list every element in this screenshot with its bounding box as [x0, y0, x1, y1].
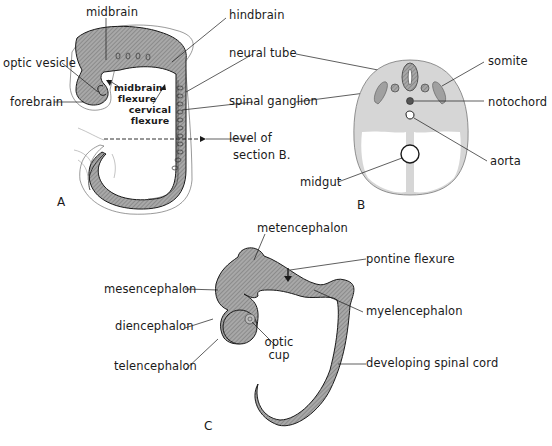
label-section-b: section B. — [233, 149, 291, 162]
label-optic-vesicle: optic vesicle — [3, 57, 76, 70]
label-neural-tube: neural tube — [229, 47, 297, 60]
label-optic-cup: optic cup — [262, 336, 296, 362]
panel-label-a: A — [57, 196, 65, 209]
label-telencephalon: telencephalon — [114, 360, 197, 373]
label-midbrain-flexure-line1: midbrain — [114, 82, 160, 93]
label-myelencephalon: myelencephalon — [366, 305, 463, 318]
label-midgut: midgut — [300, 176, 341, 189]
label-spinal-ganglion: spinal ganglion — [229, 95, 318, 108]
label-cervical-flexure-line2: flexure — [126, 115, 174, 126]
label-developing-spinal-cord: developing spinal cord — [366, 357, 498, 370]
label-forebrain: forebrain — [10, 96, 63, 109]
panel-label-b: B — [357, 199, 365, 212]
label-notochord: notochord — [488, 96, 547, 109]
label-cervical-flexure-line1: cervical — [126, 104, 174, 115]
label-midbrain: midbrain — [86, 6, 138, 19]
label-mesencephalon: mesencephalon — [104, 283, 197, 296]
panel-b-cross-section — [354, 60, 468, 195]
label-metencephalon: metencephalon — [257, 222, 348, 235]
label-optic-cup-line2: cup — [262, 349, 296, 362]
label-midbrain-flexure-line2: flexure — [114, 93, 160, 104]
label-cervical-flexure: cervical flexure — [126, 104, 174, 126]
label-pontine-flexure: pontine flexure — [366, 253, 455, 266]
label-diencephalon: diencephalon — [115, 320, 194, 333]
label-aorta: aorta — [490, 155, 521, 168]
label-somite: somite — [488, 55, 528, 68]
label-midbrain-flexure: midbrain flexure — [114, 82, 160, 104]
label-level-of: level of — [229, 132, 272, 145]
label-hindbrain: hindbrain — [229, 9, 285, 22]
panel-label-c: C — [204, 420, 212, 433]
